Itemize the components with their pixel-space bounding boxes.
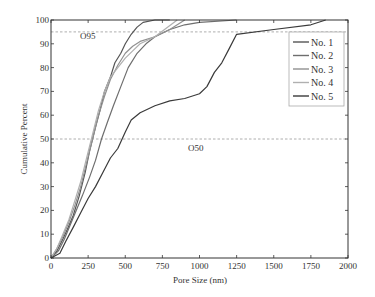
legend-label: No. 3 — [311, 64, 333, 75]
y-tick-label: 20 — [40, 205, 50, 215]
legend-label: No. 2 — [311, 50, 333, 61]
x-tick-label: 0 — [49, 261, 54, 271]
y-tick-label: 90 — [40, 39, 50, 49]
x-tick-label: 1750 — [302, 261, 321, 271]
y-tick-label: 0 — [45, 253, 50, 263]
y-tick-label: 10 — [40, 229, 50, 239]
y-tick-label: 80 — [40, 63, 50, 73]
legend-label: No. 4 — [311, 77, 333, 88]
y-tick-label: 30 — [40, 182, 50, 192]
x-tick-label: 2000 — [339, 261, 358, 271]
legend-label: No. 1 — [311, 37, 333, 48]
y-axis-label: Cumulative Percent — [19, 103, 29, 175]
y-tick-label: 60 — [40, 110, 50, 120]
legend-label: No. 5 — [311, 91, 333, 102]
x-axis-label: Pore Size (nm) — [173, 275, 227, 285]
x-tick-label: 250 — [81, 261, 95, 271]
y-tick-label: 70 — [40, 86, 50, 96]
y-tick-label: 50 — [40, 134, 50, 144]
x-tick-label: 1000 — [191, 261, 210, 271]
y-tick-label: 40 — [40, 158, 50, 168]
x-tick-label: 750 — [156, 261, 170, 271]
y-tick-label: 100 — [36, 15, 50, 25]
x-tick-label: 500 — [119, 261, 133, 271]
x-tick-label: 1500 — [265, 261, 284, 271]
x-tick-label: 1250 — [228, 261, 247, 271]
o50-annotation: O50 — [188, 143, 204, 153]
chart: 0250500750100012501500175020000102030405… — [0, 0, 375, 297]
o95-annotation: O95 — [80, 31, 96, 41]
legend: No. 1No. 2No. 3No. 4No. 5 — [289, 32, 344, 106]
